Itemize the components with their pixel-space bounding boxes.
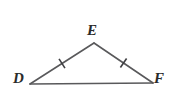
vertex-label-f: F	[154, 71, 164, 86]
side-df	[30, 83, 153, 84]
vertex-label-e: E	[87, 23, 97, 38]
tick-mark-de	[59, 59, 65, 68]
geometry-figure: D E F	[0, 0, 176, 100]
vertex-label-d: D	[13, 71, 24, 86]
triangle-def-svg	[0, 0, 176, 100]
tick-mark-ef	[120, 58, 126, 67]
